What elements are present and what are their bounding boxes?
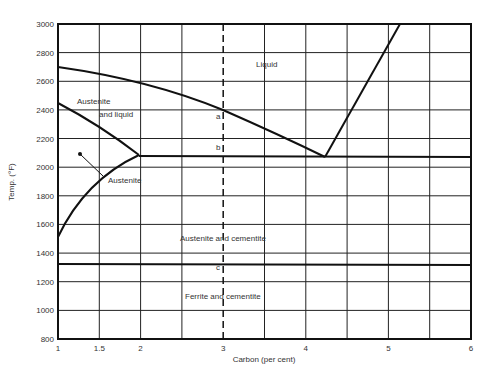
svg-text:1800: 1800 [36, 192, 54, 201]
svg-text:1600: 1600 [36, 220, 54, 229]
y-axis-label: Temp. (°F) [7, 163, 16, 201]
label-austenite: Austenite [108, 176, 142, 185]
label-point-c: c [216, 263, 220, 272]
svg-text:1.5: 1.5 [94, 344, 106, 353]
svg-text:6: 6 [469, 344, 474, 353]
svg-text:5: 5 [386, 344, 391, 353]
svg-text:3: 3 [221, 344, 226, 353]
vertical-gridlines [99, 24, 429, 339]
label-point-b: b [216, 143, 221, 152]
svg-text:1000: 1000 [36, 306, 54, 315]
eutectic-line [139, 156, 471, 157]
x-axis-ticks: 1 1.5 2 3 4 5 6 [56, 344, 474, 353]
svg-text:2200: 2200 [36, 135, 54, 144]
phase-diagram: Liquid Austenite and liquid Austenite Au… [0, 0, 489, 376]
y-axis-ticks: 3000 2800 2600 2400 2200 2000 1800 1600 … [36, 20, 54, 344]
svg-text:1400: 1400 [36, 249, 54, 258]
x-axis-label: Carbon (per cent) [233, 355, 296, 364]
svg-text:3000: 3000 [36, 20, 54, 29]
svg-text:1200: 1200 [36, 278, 54, 287]
svg-text:800: 800 [41, 335, 55, 344]
svg-text:2600: 2600 [36, 77, 54, 86]
label-austenite-and-liquid-1: Austenite [77, 97, 111, 106]
svg-text:4: 4 [304, 344, 309, 353]
label-austenite-and-cementite: Austenite and cementite [180, 234, 266, 243]
svg-text:1: 1 [56, 344, 61, 353]
svg-text:2000: 2000 [36, 163, 54, 172]
eutectoid-line [58, 264, 471, 265]
label-point-a: a [216, 112, 221, 121]
svg-text:2: 2 [138, 344, 143, 353]
svg-text:2800: 2800 [36, 49, 54, 58]
svg-text:2400: 2400 [36, 106, 54, 115]
label-liquid: Liquid [256, 60, 277, 69]
label-ferrite-and-cementite: Ferrite and cementite [185, 292, 261, 301]
label-austenite-and-liquid-2: and liquid [99, 110, 133, 119]
